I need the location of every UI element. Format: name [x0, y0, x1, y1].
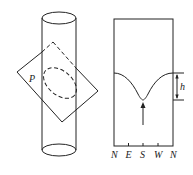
- h-label: h: [180, 81, 185, 92]
- h-arrow-up: [175, 74, 178, 79]
- profile-frame: [114, 19, 173, 146]
- plane-p: P: [17, 42, 98, 122]
- plane-edge: [76, 68, 98, 91]
- profile-curve: [114, 73, 173, 100]
- arrow-head: [141, 102, 146, 108]
- cylinder-bottom-back: [42, 144, 76, 150]
- x-tick-label: W: [154, 149, 164, 160]
- x-tick-label: N: [110, 149, 119, 160]
- x-tick-label: N: [169, 149, 178, 160]
- plane-edge-hidden: [42, 42, 53, 52]
- cylinder-bottom-front: [42, 150, 76, 156]
- plane-edge: [17, 52, 42, 72]
- plane-label: P: [28, 73, 35, 84]
- x-tick-label: E: [125, 149, 132, 160]
- figure: P h N E S W N: [0, 0, 193, 175]
- x-tick-label: S: [140, 149, 145, 160]
- plane-edge-hidden: [53, 42, 76, 68]
- h-arrow-down: [175, 95, 178, 100]
- profile-panel: h N E S W N: [110, 19, 185, 160]
- plane-edge: [17, 72, 62, 122]
- cylinder: [42, 12, 76, 156]
- cylinder-top-ellipse: [42, 12, 76, 24]
- plane-edge: [62, 91, 98, 122]
